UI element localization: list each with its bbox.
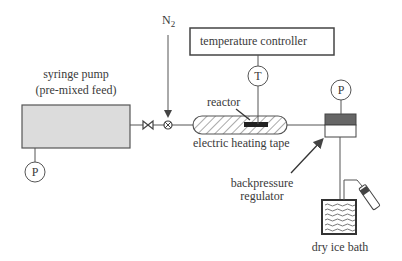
mixing-tee-icon [164,121,172,129]
dry-ice-bath-label: dry ice bath [298,240,382,254]
backpressure-regulator-label: backpressure [218,176,306,190]
syringe-pump-sublabel: (pre-mixed feed) [22,83,130,97]
syringe-pump-label: syringe pump [28,67,124,81]
syringe-pump-body [22,105,130,148]
nitrogen-label: N2 [162,13,175,31]
backpressure-regulator-sublabel: regulator [218,189,306,203]
reactor-heating-tape [193,116,287,134]
backpressure-regulator [325,114,356,137]
dry-ice-bath-icon [322,200,356,234]
regulator-gauge-symbol: P [334,83,348,97]
heating-tape-label: electric heating tape [193,136,290,150]
nitrogen-subscript: 2 [171,19,176,29]
temperature-controller-label: temperature controller [200,34,307,48]
shutoff-valve-icon [143,121,153,129]
nitrogen-symbol: N [162,13,171,27]
thermocouple-symbol: T [251,69,265,83]
pump-gauge-symbol: P [28,165,42,179]
reactor-label: reactor [207,95,240,109]
collection-vial-icon [359,184,380,210]
